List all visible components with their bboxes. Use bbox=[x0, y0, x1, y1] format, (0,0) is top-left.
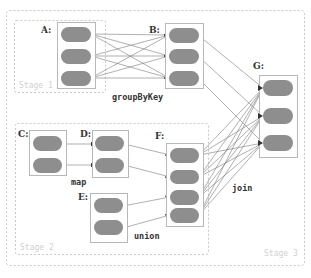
rdd-e-label: E: bbox=[78, 192, 88, 202]
rdd-b bbox=[166, 24, 204, 89]
rdd-a-partition bbox=[61, 27, 91, 42]
rdd-f bbox=[167, 144, 204, 227]
rdd-g-partition bbox=[263, 135, 293, 151]
rdd-c bbox=[30, 131, 67, 176]
rdd-g-partition bbox=[263, 108, 293, 124]
rdd-a-partition bbox=[61, 49, 91, 64]
rdd-f-partition bbox=[170, 148, 199, 163]
stage-1-label: Stage 1 bbox=[19, 81, 53, 90]
rdd-f-partition bbox=[170, 208, 199, 223]
rdd-c-partition bbox=[33, 136, 62, 151]
rdd-g bbox=[260, 76, 298, 158]
op-union-label: union bbox=[134, 231, 160, 241]
rdd-a-partition bbox=[61, 71, 91, 86]
rdd-e-partition bbox=[94, 220, 123, 235]
rdd-d bbox=[93, 131, 129, 178]
rdd-b-partition bbox=[169, 49, 199, 64]
stage-2-label: Stage 2 bbox=[20, 243, 54, 252]
rdd-b-partition bbox=[169, 71, 199, 86]
rdd-d-partition bbox=[95, 136, 124, 151]
rdd-d-label: D: bbox=[80, 129, 91, 139]
rdd-f-label: F: bbox=[155, 131, 164, 141]
union-edges bbox=[123, 144, 170, 228]
rdd-a bbox=[58, 23, 96, 89]
rdd-c-partition bbox=[33, 158, 62, 173]
rdd-e-partition bbox=[94, 198, 123, 213]
groupbykey-edges bbox=[91, 34, 169, 78]
rdd-b-label: B: bbox=[149, 25, 160, 35]
rdd-f-partition bbox=[170, 170, 199, 184]
op-join-label: join bbox=[232, 183, 252, 193]
rdd-a-label: A: bbox=[40, 25, 51, 35]
op-groupbykey-label: groupByKey bbox=[112, 92, 163, 102]
rdd-g-label: G: bbox=[253, 61, 264, 71]
rdd-g-partition bbox=[263, 80, 293, 96]
rdd-stage-diagram: A: B: C: D: E: F: G: groupByKey map unio… bbox=[0, 0, 311, 278]
rdd-c-label: C: bbox=[18, 129, 29, 139]
rdd-d-partition bbox=[95, 158, 124, 173]
op-map-label: map bbox=[71, 177, 86, 187]
rdd-e bbox=[91, 194, 128, 243]
rdd-b-partition bbox=[169, 28, 199, 43]
stage-3-label: Stage 3 bbox=[264, 249, 298, 258]
rdd-f-partition bbox=[170, 190, 199, 205]
join-narrow-edges bbox=[198, 35, 263, 143]
